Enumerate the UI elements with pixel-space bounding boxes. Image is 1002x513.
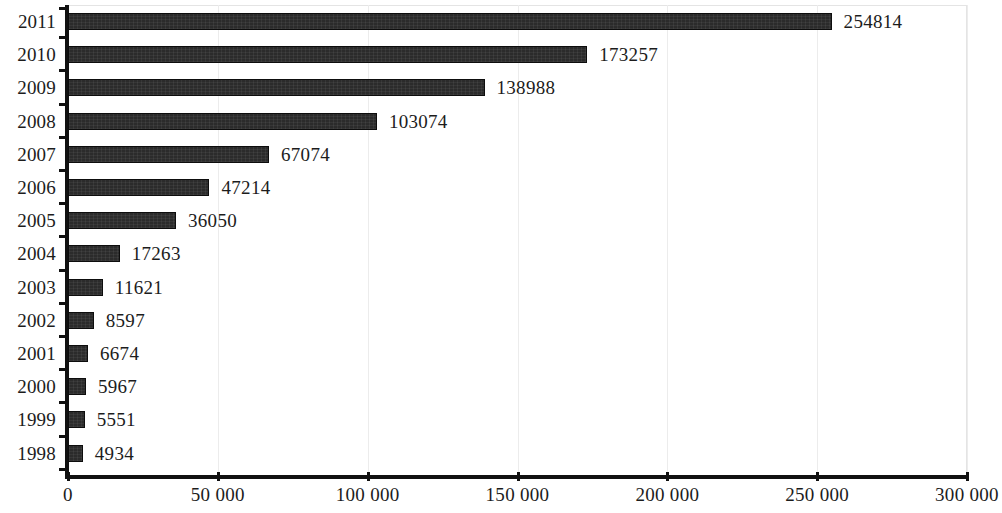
bar-value-label-2002: 8597 — [106, 312, 145, 329]
bar-2001 — [68, 345, 88, 362]
bar-row: 20005967 — [0, 370, 1002, 403]
x-axis-tick-label: 250 000 — [785, 484, 849, 506]
bar-2010 — [68, 46, 587, 63]
bar-row: 20028597 — [0, 304, 1002, 337]
x-axis-tick-label: 300 000 — [935, 484, 999, 506]
bar-value-label-2005: 36050 — [188, 212, 237, 229]
bar-row: 200647214 — [0, 171, 1002, 204]
bar-value-label-2010: 173257 — [599, 46, 658, 63]
bar-row: 2009138988 — [0, 71, 1002, 104]
x-axis-tick — [67, 472, 70, 481]
bar-value-label-2006: 47214 — [221, 179, 270, 196]
x-axis-tick — [367, 472, 370, 481]
category-label-2007: 2007 — [0, 138, 56, 171]
bar-row: 200417263 — [0, 237, 1002, 270]
category-label-2005: 2005 — [0, 204, 56, 237]
category-label-2008: 2008 — [0, 105, 56, 138]
bar-chart: 2011254814201017325720091389882008103074… — [0, 0, 1002, 513]
category-label-2000: 2000 — [0, 370, 56, 403]
bar-2007 — [68, 146, 269, 163]
category-label-1999: 1999 — [0, 403, 56, 436]
x-axis-tick-label: 50 000 — [191, 484, 245, 506]
bar-value-label-1998: 4934 — [95, 445, 134, 462]
x-axis-tick — [517, 472, 520, 481]
bar-value-label-2003: 11621 — [115, 279, 163, 296]
bar-row: 20016674 — [0, 337, 1002, 370]
x-axis-tick-label: 0 — [63, 484, 73, 506]
bar-value-label-1999: 5551 — [97, 411, 136, 428]
bar-row: 2008103074 — [0, 105, 1002, 138]
bar-value-label-2004: 17263 — [132, 245, 181, 262]
bar-2005 — [68, 212, 176, 229]
category-label-2006: 2006 — [0, 171, 56, 204]
bar-1998 — [68, 445, 83, 462]
bar-2009 — [68, 79, 485, 96]
bar-2011 — [68, 13, 832, 30]
bar-value-label-2008: 103074 — [389, 113, 448, 130]
category-label-2010: 2010 — [0, 38, 56, 71]
bar-2002 — [68, 312, 94, 329]
category-label-2003: 2003 — [0, 271, 56, 304]
bar-2003 — [68, 279, 103, 296]
bar-value-label-2007: 67074 — [281, 146, 330, 163]
bar-row: 200536050 — [0, 204, 1002, 237]
bar-row: 2010173257 — [0, 38, 1002, 71]
x-axis-tick-label: 100 000 — [336, 484, 400, 506]
category-label-2001: 2001 — [0, 337, 56, 370]
x-axis-tick-label: 150 000 — [486, 484, 550, 506]
bar-2000 — [68, 378, 86, 395]
category-label-2009: 2009 — [0, 71, 56, 104]
bar-value-label-2001: 6674 — [100, 345, 139, 362]
x-axis-tick — [966, 472, 969, 481]
bar-row: 200767074 — [0, 138, 1002, 171]
bar-row: 200311621 — [0, 271, 1002, 304]
bar-2004 — [68, 245, 120, 262]
bar-row: 19984934 — [0, 437, 1002, 470]
bar-value-label-2011: 254814 — [844, 13, 903, 30]
bar-2008 — [68, 113, 377, 130]
x-axis-tick — [666, 472, 669, 481]
category-label-1998: 1998 — [0, 437, 56, 470]
x-axis-tick-label: 200 000 — [635, 484, 699, 506]
bar-2006 — [68, 179, 209, 196]
bar-row: 2011254814 — [0, 5, 1002, 38]
category-label-2011: 2011 — [0, 5, 56, 38]
x-axis-tick — [816, 472, 819, 481]
category-label-2002: 2002 — [0, 304, 56, 337]
bar-value-label-2000: 5967 — [98, 378, 137, 395]
x-axis-tick — [217, 472, 220, 481]
bar-row: 19995551 — [0, 403, 1002, 436]
bar-1999 — [68, 411, 85, 428]
category-label-2004: 2004 — [0, 237, 56, 270]
bar-value-label-2009: 138988 — [497, 79, 556, 96]
